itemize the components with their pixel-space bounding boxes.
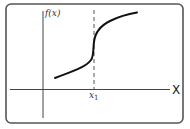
function-graph: f(x) X x1	[0, 0, 190, 129]
marker-label: x1	[89, 90, 99, 102]
frame	[6, 4, 183, 123]
x-axis-label: X	[172, 83, 180, 97]
y-axis-label: f(x)	[44, 8, 61, 18]
marker-label-subscript: 1	[94, 94, 98, 102]
function-curve	[55, 13, 137, 79]
